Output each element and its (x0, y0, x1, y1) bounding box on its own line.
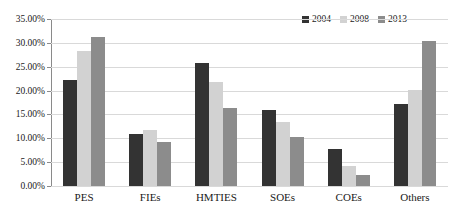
y-tick-label: 15.00% (16, 109, 45, 119)
y-tick-label: 25.00% (16, 62, 45, 72)
bar-others-2013[interactable] (422, 41, 436, 186)
y-tick-mark (47, 162, 51, 163)
bar-coes-2013[interactable] (356, 175, 370, 186)
y-tick-mark (47, 186, 51, 187)
y-tick-mark (47, 91, 51, 92)
bar-chart: 200420082013 0.00%5.00%10.00%15.00%20.00… (0, 0, 455, 217)
x-tick-label: FIEs (140, 190, 161, 204)
bar-coes-2004[interactable] (328, 149, 342, 186)
y-axis: 0.00%5.00%10.00%15.00%20.00%25.00%30.00%… (0, 0, 48, 217)
x-tick-label: Others (400, 190, 429, 204)
bar-pes-2008[interactable] (77, 51, 91, 187)
y-tick-mark (47, 67, 51, 68)
bar-fies-2004[interactable] (129, 134, 143, 186)
bar-group-hmties (195, 19, 237, 186)
bar-soes-2008[interactable] (276, 122, 290, 186)
y-tick-mark (47, 43, 51, 44)
plot-area (51, 19, 448, 186)
bar-pes-2004[interactable] (63, 80, 77, 186)
bar-group-pes (63, 19, 105, 186)
y-tick-label: 10.00% (16, 133, 45, 143)
x-tick-label: COEs (336, 190, 362, 204)
bar-others-2004[interactable] (394, 104, 408, 186)
bar-soes-2013[interactable] (290, 137, 304, 186)
bar-fies-2008[interactable] (143, 130, 157, 186)
bar-pes-2013[interactable] (91, 37, 105, 186)
y-tick-label: 30.00% (16, 38, 45, 48)
bar-fies-2013[interactable] (157, 142, 171, 186)
y-tick-label: 5.00% (20, 157, 45, 167)
bar-others-2008[interactable] (408, 90, 422, 186)
y-tick-label: 35.00% (16, 14, 45, 24)
bar-hmties-2013[interactable] (223, 108, 237, 186)
x-tick-label: PES (75, 190, 94, 204)
bar-group-soes (262, 19, 304, 186)
bar-hmties-2004[interactable] (195, 63, 209, 186)
x-tick-label: HMTIES (196, 190, 237, 204)
bar-group-others (394, 19, 436, 186)
y-tick-mark (47, 114, 51, 115)
bar-group-fies (129, 19, 171, 186)
y-tick-label: 0.00% (20, 181, 45, 191)
x-tick-label: SOEs (270, 190, 295, 204)
x-axis: PESFIEsHMTIESSOEsCOEsOthers (51, 190, 448, 210)
bar-group-coes (328, 19, 370, 186)
y-tick-mark (47, 19, 51, 20)
bar-soes-2004[interactable] (262, 110, 276, 186)
bar-coes-2008[interactable] (342, 166, 356, 186)
y-tick-label: 20.00% (16, 86, 45, 96)
y-tick-mark (47, 138, 51, 139)
gridline (51, 186, 448, 187)
bar-hmties-2008[interactable] (209, 82, 223, 186)
bars-layer (51, 19, 448, 186)
